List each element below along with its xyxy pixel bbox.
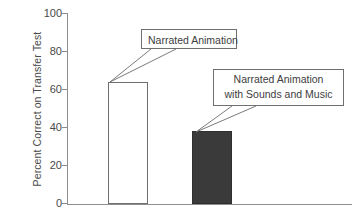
y-axis-tick-labels: 100 80 60 40 20 0	[26, 0, 62, 219]
callout-narrated-animation: Narrated Animation	[141, 29, 237, 49]
callout-narrated-animation-sounds-music: Narrated Animation with Sounds and Music	[213, 69, 344, 106]
callout-1-line-1: Narrated Animation	[148, 32, 230, 48]
y-tick-label-100: 100	[44, 7, 62, 19]
y-tick-label-80: 80	[50, 45, 62, 57]
bar-chart-figure: Percent Correct on Transfer Test 100 80 …	[0, 0, 359, 219]
bar-narrated-animation-sounds-music	[192, 131, 232, 204]
x-axis-baseline	[67, 204, 352, 205]
y-tick-label-60: 60	[50, 83, 62, 95]
y-tick-label-20: 20	[50, 159, 62, 171]
callout-2-line-2: with Sounds and Music	[220, 87, 337, 102]
y-tick-label-40: 40	[50, 121, 62, 133]
y-axis-line	[67, 13, 68, 205]
bar-narrated-animation	[108, 82, 148, 204]
callout-2-line-1: Narrated Animation	[220, 72, 337, 87]
